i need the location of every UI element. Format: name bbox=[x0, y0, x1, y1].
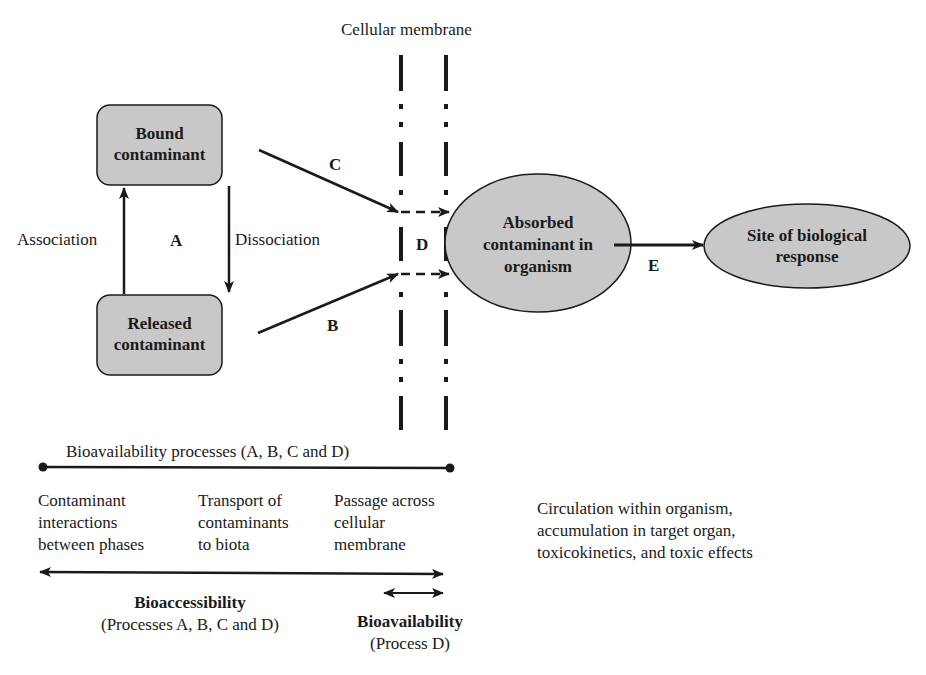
process-d-label: D bbox=[416, 235, 428, 255]
released-line1: Released bbox=[97, 313, 222, 334]
absorbed-line3: organism bbox=[445, 256, 631, 278]
bioaccessibility-sub: (Processes A, B, C and D) bbox=[70, 614, 310, 636]
process-b-label: B bbox=[327, 316, 338, 336]
released-line2: contaminant bbox=[97, 334, 222, 355]
col2-line3: to biota bbox=[198, 534, 289, 556]
bioaccessibility-title: Bioaccessibility bbox=[70, 592, 310, 614]
absorbed-line2: contaminant in bbox=[445, 234, 631, 256]
bioavailability-title: Bioavailability bbox=[340, 611, 480, 633]
col1-line1: Contaminant bbox=[38, 490, 144, 512]
circulation-line2: accumulation in target organ, bbox=[537, 520, 753, 542]
bioavailability-label: Bioavailability (Process D) bbox=[340, 611, 480, 655]
column-passage: Passage across cellular membrane bbox=[334, 490, 435, 556]
absorbed-contaminant-label: Absorbed contaminant in organism bbox=[445, 212, 631, 278]
bound-contaminant-label: Bound contaminant bbox=[97, 123, 222, 165]
site-of-response-label: Site of biological response bbox=[704, 225, 910, 267]
site-line2: response bbox=[704, 246, 910, 267]
circulation-description: Circulation within organism, accumulatio… bbox=[537, 498, 753, 564]
col3-line1: Passage across bbox=[334, 490, 435, 512]
released-contaminant-label: Released contaminant bbox=[97, 313, 222, 355]
membrane-label: Cellular membrane bbox=[341, 20, 472, 40]
column-transport: Transport of contaminants to biota bbox=[198, 490, 289, 556]
col1-line2: interactions bbox=[38, 512, 144, 534]
column-contaminant-interactions: Contaminant interactions between phases bbox=[38, 490, 144, 556]
bioavailability-sub: (Process D) bbox=[340, 633, 480, 655]
bound-line2: contaminant bbox=[97, 144, 222, 165]
col3-line3: membrane bbox=[334, 534, 435, 556]
association-label: Association bbox=[17, 230, 97, 250]
circulation-line1: Circulation within organism, bbox=[537, 498, 753, 520]
bioavailability-processes-line bbox=[43, 467, 450, 468]
bioaccessibility-double-arrow bbox=[40, 572, 443, 574]
bioaccessibility-label: Bioaccessibility (Processes A, B, C and … bbox=[70, 592, 310, 636]
col2-line2: contaminants bbox=[198, 512, 289, 534]
col2-line1: Transport of bbox=[198, 490, 289, 512]
site-line1: Site of biological bbox=[704, 225, 910, 246]
bound-line1: Bound bbox=[97, 123, 222, 144]
col1-line3: between phases bbox=[38, 534, 144, 556]
absorbed-line1: Absorbed bbox=[445, 212, 631, 234]
process-c-label: C bbox=[329, 155, 341, 175]
circulation-line3: toxicokinetics, and toxic effects bbox=[537, 542, 753, 564]
process-e-label: E bbox=[648, 256, 659, 276]
bioavailability-processes-label: Bioavailability processes (A, B, C and D… bbox=[66, 442, 349, 462]
dissociation-label: Dissociation bbox=[235, 230, 320, 250]
process-a-label: A bbox=[170, 231, 182, 251]
col3-line2: cellular bbox=[334, 512, 435, 534]
